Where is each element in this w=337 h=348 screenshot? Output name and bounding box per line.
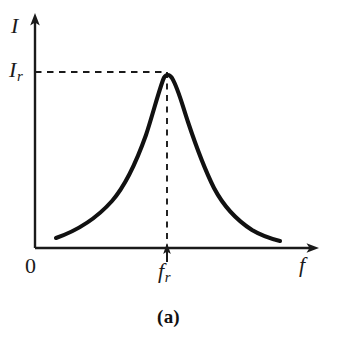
origin-label: 0 <box>25 255 36 277</box>
y-axis-label: I <box>11 15 18 37</box>
resonant-frequency-label-subscript: r <box>164 269 170 285</box>
peak-value-label: Ir <box>9 59 23 81</box>
resonance-curve-path <box>56 75 280 241</box>
figure-caption: (a) <box>0 306 337 328</box>
resonance-curve-figure: I Ir 0 fr f (a) <box>0 0 337 348</box>
resonant-frequency-label: fr <box>158 260 171 282</box>
x-axis-label: f <box>299 254 305 276</box>
peak-value-label-subscript: r <box>16 68 22 84</box>
resonance-chart-svg <box>0 0 337 348</box>
